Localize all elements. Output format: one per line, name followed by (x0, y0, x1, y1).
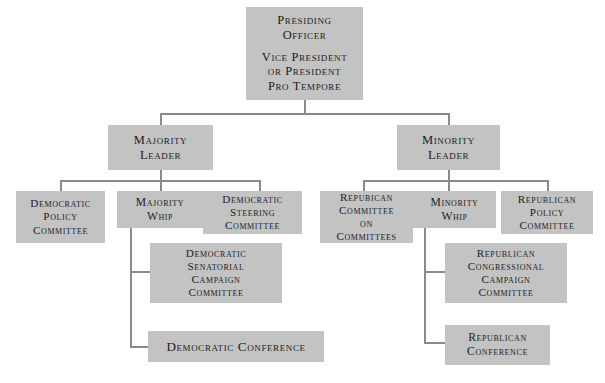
connector-root-stem (304, 99, 306, 114)
node-republican-congressional-campaign-committee: Republican Congressional Campaign Commit… (445, 243, 567, 303)
republican-conference-line-2: Conference (467, 345, 528, 359)
node-democratic-senatorial-campaign-committee: Democratic Senatorial Campaign Committee (150, 243, 282, 303)
democratic-conference-line-1: Democratic Conference (166, 339, 305, 355)
connector-to-republican-policy-committee (547, 180, 549, 191)
republican-committee-on-committees-line-1: Repubican (340, 191, 393, 204)
connector-to-republican-congressional-campaign-committee (424, 271, 445, 273)
connector-to-democratic-conference (130, 346, 148, 348)
democratic-policy-committee-line-1: Democratic (30, 197, 90, 210)
node-republican-committee-on-committees: Repubican Committee on Committees (320, 191, 413, 243)
republican-policy-committee-line-1: Republican (518, 193, 576, 206)
republican-congressional-campaign-committee-line-3: Campaign (482, 273, 531, 286)
democratic-senatorial-campaign-committee-line-4: Committee (188, 286, 243, 299)
republican-committee-on-committees-line-2: Committee (339, 204, 394, 217)
node-minority-whip: Minority Whip (413, 191, 496, 228)
majority-whip-line-2: Whip (147, 210, 173, 224)
republican-congressional-campaign-committee-line-2: Congressional (468, 260, 545, 273)
connector-to-republican-committee-on-committees (363, 180, 365, 191)
node-majority-leader: Majority Leader (108, 125, 213, 170)
node-presiding-officer: Presiding Officer Vice President or Pres… (246, 7, 363, 100)
connector-right-fan-bus (363, 180, 548, 182)
democratic-steering-committee-line-1: Democratic (222, 193, 282, 206)
connector-to-democratic-steering-committee (259, 180, 261, 191)
democratic-senatorial-campaign-committee-line-2: Senatorial (188, 260, 245, 273)
node-majority-whip: Majority Whip (117, 191, 203, 228)
republican-congressional-campaign-committee-line-1: Republican (477, 247, 535, 260)
democratic-steering-committee-line-3: Committee (225, 219, 280, 232)
presiding-officer-line-5: Pro Tempore (268, 79, 341, 94)
node-republican-policy-committee: Republican Policy Committee (501, 191, 593, 234)
connector-to-majority-whip (160, 180, 162, 191)
node-democratic-policy-committee: Democratic Policy Committee (16, 191, 105, 243)
node-democratic-steering-committee: Democratic Steering Committee (203, 191, 302, 234)
node-minority-leader: Minority Leader (397, 125, 500, 170)
presiding-officer-line-1: Presiding (277, 13, 331, 28)
republican-policy-committee-line-3: Committee (519, 219, 574, 232)
majority-leader-line-2: Leader (140, 148, 181, 163)
minority-whip-line-1: Minority (431, 196, 479, 210)
republican-congressional-campaign-committee-line-4: Committee (478, 286, 533, 299)
connector-to-majority-leader (160, 113, 162, 125)
connector-majority-whip-spine (130, 228, 132, 348)
republican-committee-on-committees-line-4: Committees (336, 230, 396, 243)
connector-to-minority-whip (448, 180, 450, 191)
connector-to-democratic-senatorial-campaign-committee (130, 271, 150, 273)
majority-whip-line-1: Majority (136, 196, 184, 210)
node-republican-conference: Republican Conference (445, 325, 550, 365)
minority-leader-line-2: Leader (428, 148, 469, 163)
majority-leader-line-1: Majority (134, 133, 187, 148)
connector-level1-bus (160, 113, 450, 115)
senate-leadership-org-chart: Presiding Officer Vice President or Pres… (0, 0, 605, 383)
democratic-policy-committee-line-3: Committee (33, 224, 88, 237)
connector-to-republican-conference (424, 342, 445, 344)
democratic-senatorial-campaign-committee-line-3: Campaign (192, 273, 241, 286)
minority-whip-line-2: Whip (441, 210, 467, 224)
presiding-officer-line-3: Vice President (262, 50, 348, 65)
presiding-officer-line-4: or President (268, 64, 341, 79)
minority-leader-line-1: Minority (422, 133, 475, 148)
presiding-officer-line-2: Officer (283, 28, 327, 43)
node-democratic-conference: Democratic Conference (148, 331, 324, 362)
connector-to-minority-leader (448, 113, 450, 125)
republican-policy-committee-line-2: Policy (530, 206, 564, 219)
republican-conference-line-1: Republican (468, 331, 527, 345)
democratic-senatorial-campaign-committee-line-1: Democratic (186, 247, 246, 260)
connector-minority-whip-spine (424, 228, 426, 344)
democratic-steering-committee-line-2: Steering (230, 206, 275, 219)
democratic-policy-committee-line-2: Policy (43, 210, 77, 223)
republican-committee-on-committees-line-3: on (360, 217, 373, 230)
connector-to-democratic-policy-committee (60, 180, 62, 191)
